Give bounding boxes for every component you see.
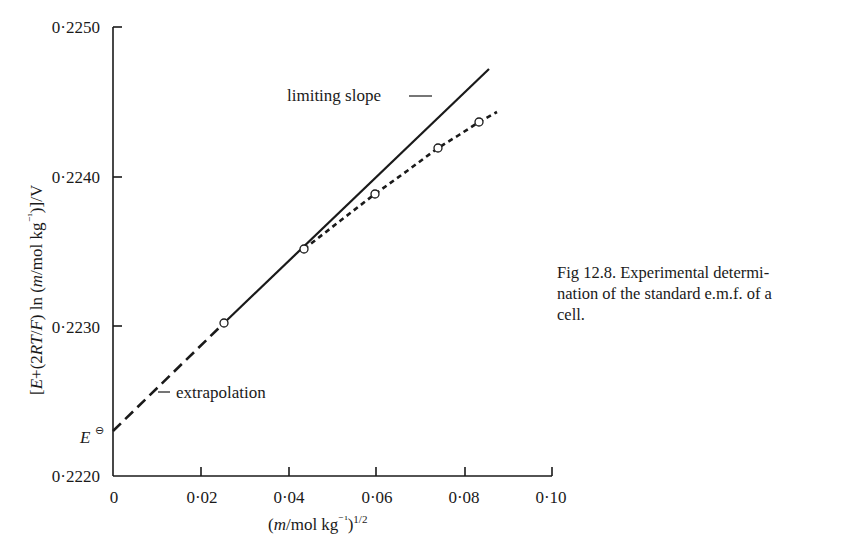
x-tick-labels: 0 0·02 0·04 0·06 0·08 0·10 — [110, 488, 567, 507]
limiting-slope-line — [224, 69, 489, 323]
data-point — [220, 319, 228, 327]
experimental-curve — [304, 112, 497, 249]
data-point — [475, 118, 483, 126]
limiting-slope-label: limiting slope — [287, 86, 381, 105]
data-points — [220, 118, 483, 327]
data-point — [371, 190, 379, 198]
y-tick-label: 0·2230 — [52, 318, 100, 337]
extrapolation-line — [113, 323, 224, 431]
y-tick-label: 0·2250 — [52, 18, 100, 37]
data-point — [300, 245, 308, 253]
caption-line: cell. — [557, 304, 827, 325]
standard-state-symbol: ⊖ — [95, 424, 104, 437]
data-point — [434, 144, 442, 152]
x-tick-label: 0·06 — [361, 488, 392, 507]
y-tick-labels: 0·2250 0·2240 0·2230 0·2220 — [52, 18, 100, 486]
y-axis-title: [E+(2RT/F) ln (m/mol kg⁻¹)]/V — [25, 184, 46, 395]
y-tick-label: 0·2240 — [52, 168, 100, 187]
x-tick-label: 0·02 — [186, 488, 217, 507]
x-tick-label: 0·10 — [535, 488, 566, 507]
x-tick-label: 0·08 — [448, 488, 479, 507]
x-axis-title: (m/mol kg⁻¹)1/2 — [268, 513, 367, 534]
extrapolation-label: extrapolation — [176, 383, 266, 402]
caption-line: nation of the standard e.m.f. of a — [557, 283, 827, 304]
figure-caption: Fig 12.8. Experimental determi- nation o… — [557, 262, 827, 325]
x-tick-label: 0·04 — [273, 488, 305, 507]
x-tick-label: 0 — [110, 488, 119, 507]
y-tick-label: 0·2220 — [52, 467, 100, 486]
e-standard-label: E — [79, 428, 91, 447]
caption-line: Fig 12.8. Experimental determi- — [557, 262, 827, 283]
